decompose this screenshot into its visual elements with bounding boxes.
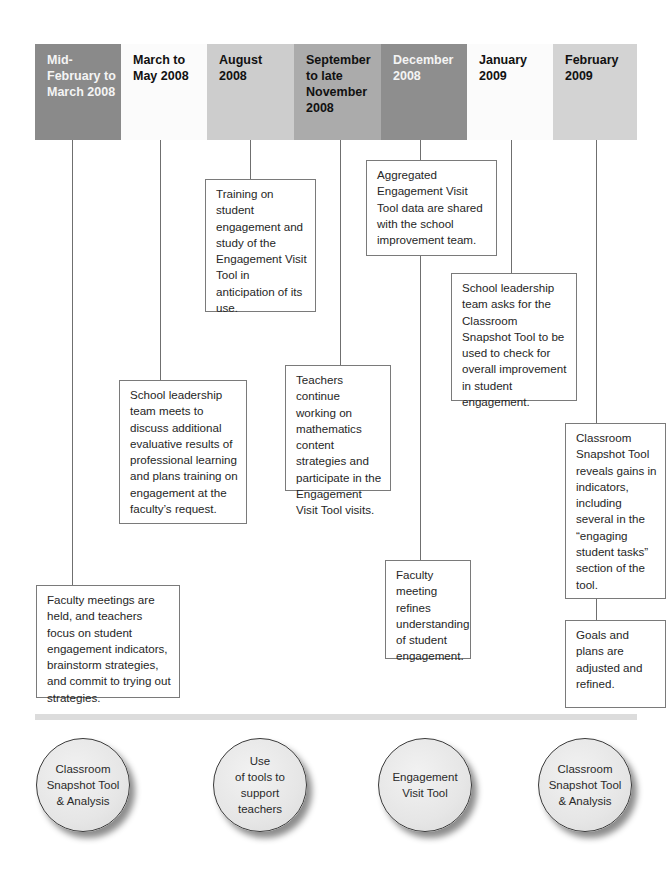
event-box-march-may-2008: School leadership team meets to discuss … bbox=[119, 380, 247, 524]
event-box-sep-nov-2008: Teachers continue working on mathematics… bbox=[285, 365, 391, 491]
event-box-december-2008-shared-data: Aggregated Engagement Visit Tool data ar… bbox=[366, 160, 497, 256]
period-mid-feb-march-2008: Mid- February to March 2008 bbox=[35, 44, 121, 140]
tool-circle-classroom-snapshot-1: Classroom Snapshot Tool & Analysis bbox=[36, 738, 130, 832]
connector-line-sep-nov bbox=[340, 140, 341, 365]
connector-line-december-top bbox=[420, 140, 421, 160]
connector-line-december-bottom bbox=[420, 255, 421, 560]
period-march-may-2008: March to May 2008 bbox=[121, 44, 207, 140]
event-box-february-2009-goals: Goals and plans are adjusted and refined… bbox=[565, 620, 666, 708]
event-box-january-2009: School leadership team asks for the Clas… bbox=[451, 273, 577, 401]
event-box-december-2008-faculty-meeting: Faculty meeting refines understanding of… bbox=[385, 560, 471, 659]
period-january-2009: January 2009 bbox=[467, 44, 553, 140]
connector-line-mid-feb bbox=[72, 140, 73, 585]
tool-circle-engagement-visit-tool: Engagement Visit Tool bbox=[378, 738, 472, 832]
period-february-2009: February 2009 bbox=[553, 44, 637, 140]
tool-circle-classroom-snapshot-2: Classroom Snapshot Tool & Analysis bbox=[538, 738, 632, 832]
period-december-2008: December 2008 bbox=[381, 44, 467, 140]
period-august-2008: August 2008 bbox=[207, 44, 294, 140]
section-divider bbox=[35, 714, 637, 720]
connector-line-august bbox=[250, 140, 251, 179]
event-box-mid-feb-march-2008: Faculty meetings are held, and teachers … bbox=[36, 585, 180, 698]
connector-line-march-may bbox=[160, 140, 161, 380]
timeline-header: Mid- February to March 2008 March to May… bbox=[35, 44, 637, 140]
period-sep-nov-2008: September to late November 2008 bbox=[294, 44, 381, 140]
connector-line-february bbox=[596, 140, 597, 423]
tool-circle-use-of-tools: Use of tools to support teachers bbox=[213, 738, 307, 832]
connector-line-january bbox=[511, 140, 512, 273]
event-box-august-2008: Training on student engagement and study… bbox=[205, 179, 316, 312]
connector-line-february-b bbox=[596, 598, 597, 620]
event-box-february-2009-gains: Classroom Snapshot Tool reveals gains in… bbox=[565, 423, 666, 599]
